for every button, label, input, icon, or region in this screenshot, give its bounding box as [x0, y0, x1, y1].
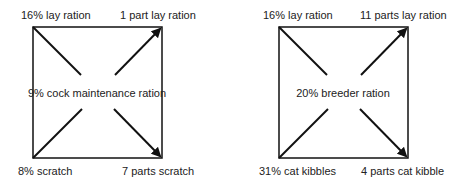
arrow-bottom-right [114, 109, 160, 156]
right-top-right-label: 11 parts lay ration [360, 9, 447, 21]
arrow-bottom-right [360, 109, 406, 156]
arrow-top-right [361, 29, 406, 75]
left-top-left-label: 16% lay ration [21, 9, 91, 21]
diagonal-top-left [33, 27, 81, 75]
right-bottom-left-label: 31% cat kibbles [259, 165, 336, 177]
right-bottom-right-label: 4 parts cat kibble [361, 165, 444, 177]
diagonal-bottom-left [33, 109, 82, 158]
left-top-right-label: 1 part lay ration [120, 9, 196, 21]
left-bottom-left-label: 8% scratch [18, 165, 72, 177]
diagonal-bottom-left [279, 109, 328, 158]
diagonal-top-left [279, 27, 327, 75]
left-bottom-right-label: 7 parts scratch [122, 165, 194, 177]
right-top-left-label: 16% lay ration [263, 9, 333, 21]
arrow-top-right [115, 29, 160, 75]
right-center-label: 20% breeder ration [296, 87, 390, 99]
left-center-label: 9% cock maintenance ration [28, 87, 166, 99]
